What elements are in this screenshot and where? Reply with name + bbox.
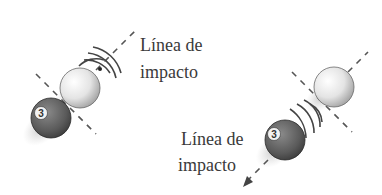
left-panel: 3 <box>16 28 138 153</box>
right-label-line1: Línea de <box>181 126 243 152</box>
ball-number: 3 <box>38 108 44 119</box>
cue-ball <box>60 68 100 108</box>
right-label-line2: impacto <box>178 152 236 178</box>
cue-ball <box>314 67 354 107</box>
collision-diagram: 3 <box>0 0 382 195</box>
impact-dashed-line <box>348 52 368 72</box>
left-label-line1: Línea de <box>140 32 202 58</box>
left-label-line2: impacto <box>140 59 198 85</box>
right-panel: 3 <box>243 52 368 187</box>
impact-point <box>98 67 102 71</box>
arrow-head-icon <box>243 176 253 187</box>
ball-number: 3 <box>271 129 277 140</box>
